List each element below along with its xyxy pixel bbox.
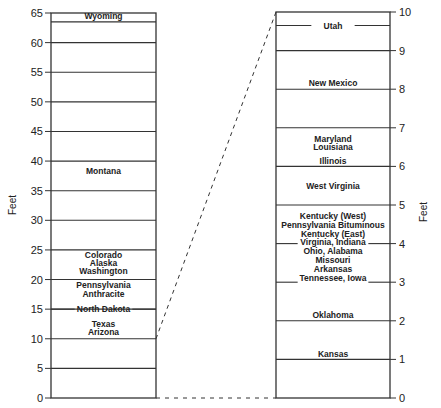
- left-panel-0-65-feet: 05101520253035404550556065WyomingMontana…: [7, 7, 156, 404]
- state-label-washington: Washington: [79, 266, 127, 276]
- y-axis-title: Feet: [7, 195, 18, 215]
- state-label-new-mexico: New Mexico: [309, 78, 358, 88]
- y-tick-label: 2: [399, 315, 405, 327]
- state-label-wyoming: Wyoming: [84, 11, 122, 21]
- y-tick-label: 30: [31, 214, 43, 226]
- y-tick-label: 35: [31, 185, 43, 197]
- y-tick-label: 7: [399, 122, 405, 134]
- y-tick-label: 9: [399, 45, 405, 57]
- y-tick-label: 10: [31, 333, 43, 345]
- state-label-louisiana: Louisiana: [313, 142, 353, 152]
- state-label-arizona: Arizona: [88, 327, 119, 337]
- right-panel-0-10-feet: 012345678910UtahNew MexicoMarylandLouisi…: [276, 6, 429, 404]
- state-label-tennessee-iowa: Tennessee, Iowa: [300, 273, 367, 283]
- y-tick-label: 0: [37, 392, 43, 404]
- y-tick-label: 25: [31, 244, 43, 256]
- y-tick-label: 6: [399, 160, 405, 172]
- y-tick-label: 45: [31, 125, 43, 137]
- y-tick-label: 5: [37, 362, 43, 374]
- state-label-montana: Montana: [86, 166, 121, 176]
- y-tick-label: 1: [399, 353, 405, 365]
- y-tick-label: 4: [399, 238, 405, 250]
- y-tick-label: 10: [399, 6, 411, 18]
- state-label-utah: Utah: [324, 21, 343, 31]
- y-tick-label: 40: [31, 155, 43, 167]
- y-tick-label: 0: [399, 392, 405, 404]
- y-tick-label: 55: [31, 66, 43, 78]
- state-label-oklahoma: Oklahoma: [312, 310, 353, 320]
- y-tick-label: 5: [399, 199, 405, 211]
- state-label-anthracite: Anthracite: [82, 289, 124, 299]
- y-tick-label: 8: [399, 83, 405, 95]
- state-label-illinois: Illinois: [320, 156, 347, 166]
- state-label-north-dakota: North Dakota: [77, 304, 131, 314]
- zoom-connector: [156, 12, 276, 398]
- y-tick-label: 65: [31, 7, 43, 19]
- panel-frame: [51, 13, 156, 398]
- state-label-kansas: Kansas: [318, 349, 349, 359]
- y-tick-label: 15: [31, 303, 43, 315]
- y-axis-title: Feet: [418, 202, 429, 222]
- connector-top-dashed-line: [156, 12, 276, 339]
- coal-seam-thickness-chart: 05101520253035404550556065WyomingMontana…: [0, 0, 441, 408]
- y-tick-label: 20: [31, 274, 43, 286]
- y-tick-label: 3: [399, 276, 405, 288]
- y-tick-label: 60: [31, 37, 43, 49]
- y-tick-label: 50: [31, 96, 43, 108]
- state-label-west-virginia: West Virginia: [306, 181, 360, 191]
